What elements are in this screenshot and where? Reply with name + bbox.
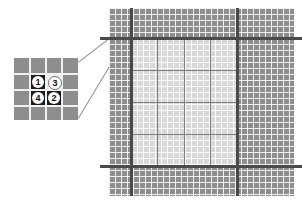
inner-block-line-h [131, 134, 237, 135]
node-marker-4: 4 [32, 92, 44, 104]
magnified-inset: 1 3 4 2 [14, 58, 78, 120]
inset-gridline-h [14, 73, 78, 75]
node-marker-1: 1 [32, 76, 44, 88]
inset-gridline-h [14, 105, 78, 107]
node-marker-3: 3 [48, 76, 62, 90]
inner-block-line-h [131, 70, 237, 71]
callout-line-lower [78, 62, 112, 118]
inset-gridline-h [14, 89, 78, 91]
mesh-inner-plate [131, 38, 237, 166]
callout-line-upper [78, 38, 109, 63]
mesh-figure: 1 3 4 2 [0, 0, 302, 203]
mesh-heavy-line-h-bottom [100, 165, 302, 168]
inner-block-line-h [131, 102, 237, 103]
mesh-heavy-line-h-top [100, 37, 302, 40]
node-marker-2: 2 [48, 92, 60, 104]
structured-mesh [109, 8, 294, 196]
